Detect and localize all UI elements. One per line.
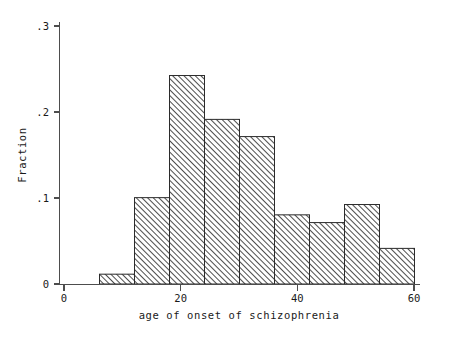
x-tick-label: 0	[61, 292, 67, 304]
histogram-bar	[275, 215, 310, 284]
y-axis-label: Fraction	[16, 127, 28, 182]
histogram-bar	[205, 119, 240, 284]
chart-canvas: 0204060 0.1.2.3 age of onset of schizoph…	[0, 0, 453, 339]
histogram-bar	[380, 248, 415, 284]
x-tick-label: 40	[291, 292, 304, 304]
bars-group	[100, 76, 415, 284]
histogram-bar	[240, 137, 275, 284]
histogram-bar	[135, 198, 170, 284]
histogram-bar	[345, 205, 380, 284]
y-ticks-group: 0.1.2.3	[36, 20, 59, 290]
histogram-bar	[170, 76, 205, 284]
x-axis-label: age of onset of schizophrenia	[139, 309, 340, 321]
x-ticks-group: 0204060	[61, 285, 420, 305]
histogram-bar	[310, 223, 345, 284]
histogram-figure: 0204060 0.1.2.3 age of onset of schizoph…	[0, 0, 453, 339]
y-tick-label: .3	[36, 20, 49, 32]
y-tick-label: .1	[36, 192, 49, 204]
x-tick-label: 60	[408, 292, 421, 304]
x-tick-label: 20	[174, 292, 187, 304]
histogram-bar	[100, 274, 135, 284]
y-tick-label: .2	[36, 106, 49, 118]
y-tick-label: 0	[43, 278, 49, 290]
